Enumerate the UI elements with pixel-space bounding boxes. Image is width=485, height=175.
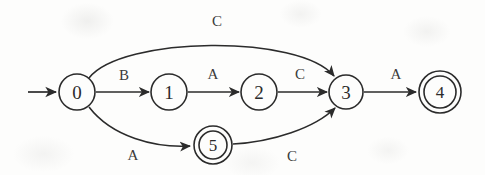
edge-label-s3-s4: A	[391, 66, 402, 82]
edge-label-s0-s5: A	[128, 147, 139, 163]
state-5-label: 5	[209, 136, 218, 155]
automaton-diagram: 0 1 2 3 4 5 B A	[0, 0, 485, 175]
state-1-label: 1	[164, 82, 174, 103]
state-diagram-svg: 0 1 2 3 4 5 B A	[0, 0, 485, 175]
state-3-label: 3	[341, 82, 351, 103]
state-4-label: 4	[436, 83, 445, 102]
state-node-3[interactable]: 3	[329, 75, 363, 109]
state-node-5[interactable]: 5	[194, 126, 232, 164]
state-0-label: 0	[72, 82, 82, 103]
edge-s5-s3-arc	[233, 108, 335, 144]
state-node-0[interactable]: 0	[59, 74, 95, 110]
state-2-label: 2	[254, 82, 264, 103]
edge-label-s2-s3: C	[295, 66, 305, 82]
state-node-1[interactable]: 1	[151, 74, 187, 110]
edge-label-s1-s2: A	[208, 66, 219, 82]
edge-label-s0-s3: C	[212, 13, 222, 29]
edge-label-s0-s1: B	[119, 67, 129, 83]
state-node-4[interactable]: 4	[419, 71, 461, 113]
edge-label-s5-s3: C	[287, 148, 297, 164]
edge-s0-s5-arc	[89, 107, 190, 146]
state-node-2[interactable]: 2	[241, 74, 277, 110]
